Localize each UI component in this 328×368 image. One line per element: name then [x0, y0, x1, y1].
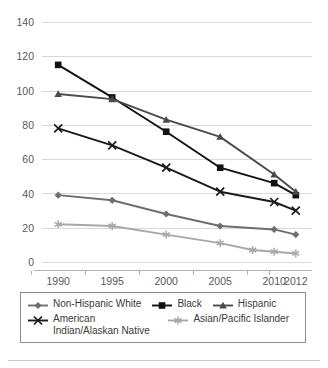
gridlines	[42, 23, 312, 263]
legend-row-2: American Indian/Alaskan Native Asian/Pac…	[27, 313, 299, 336]
data-point-marker	[163, 128, 170, 135]
y-axis-tick-label: 0	[28, 256, 34, 268]
legend-entry-hispanic[interactable]: Hispanic	[212, 298, 276, 312]
legend-marker-square-icon	[151, 299, 173, 312]
series-line	[58, 65, 296, 195]
legend-marker-diamond-icon	[27, 299, 49, 312]
data-point-marker	[271, 180, 278, 187]
y-axis-tick-label: 120	[16, 50, 34, 62]
plot-area: 020406080100120140 199019952000200520102…	[0, 0, 328, 290]
x-axis-tick-label: 2012	[284, 275, 308, 287]
legend-marker-asterisk-icon	[167, 314, 189, 327]
legend-marker-triangle-icon	[212, 299, 234, 312]
data-point-marker	[162, 164, 170, 172]
legend-entry-american-indian-alaskan-native[interactable]: American Indian/Alaskan Native	[27, 313, 157, 336]
legend-label-american-indian-alaskan-native: American Indian/Alaskan Native	[53, 313, 157, 336]
series-line	[58, 94, 296, 192]
chart-svg: 020406080100120140 199019952000200520102…	[0, 0, 328, 290]
data-point-marker	[55, 192, 62, 199]
legend-label-black: Black	[177, 298, 201, 310]
legend-row-1: Non-Hispanic White Black Hispanic	[27, 298, 299, 312]
y-axis-tick-label: 40	[22, 188, 34, 200]
x-axis-tick-label: 1995	[101, 275, 125, 287]
data-point-marker	[159, 302, 166, 309]
data-point-marker	[292, 207, 300, 215]
data-point-marker	[271, 226, 278, 233]
data-point-marker	[292, 231, 299, 238]
data-point-marker	[109, 197, 116, 204]
y-axis-tick-label: 100	[16, 85, 34, 97]
series-non-hispanic-white	[55, 192, 300, 239]
data-point-marker	[34, 302, 41, 309]
y-axis-tick-labels: 020406080100120140	[16, 16, 34, 268]
data-point-marker	[163, 210, 170, 217]
legend-entry-black[interactable]: Black	[151, 298, 201, 312]
legend-label-asian-pacific-islander: Asian/Pacific Islander	[193, 313, 289, 325]
legend-entry-non-hispanic-white[interactable]: Non-Hispanic White	[27, 298, 141, 312]
series-asian-pacific-islander	[55, 220, 300, 257]
line-chart: 020406080100120140 199019952000200520102…	[0, 0, 328, 368]
bottom-divider	[8, 360, 320, 361]
x-axis-tick-label: 2000	[155, 275, 179, 287]
legend-marker-x-icon	[27, 314, 49, 327]
y-axis-tick-label: 80	[22, 119, 34, 131]
legend-label-non-hispanic-white: Non-Hispanic White	[53, 298, 141, 310]
x-axis-tick-label: 2005	[209, 275, 233, 287]
chart-legend: Non-Hispanic White Black Hispanic Americ…	[20, 292, 306, 343]
data-point-marker	[55, 62, 62, 69]
data-point-marker	[217, 164, 224, 171]
series-black	[55, 62, 299, 199]
legend-entry-asian-pacific-islander[interactable]: Asian/Pacific Islander	[167, 313, 289, 327]
y-axis-tick-label: 20	[22, 222, 34, 234]
x-axis-tick-label: 2010	[263, 275, 287, 287]
x-axis-tick-labels: 199019952000200520102012	[47, 275, 308, 287]
y-axis-tick-label: 140	[16, 16, 34, 28]
legend-label-hispanic: Hispanic	[238, 298, 276, 310]
x-axis-tick-label: 1990	[47, 275, 71, 287]
y-axis-tick-label: 60	[22, 153, 34, 165]
